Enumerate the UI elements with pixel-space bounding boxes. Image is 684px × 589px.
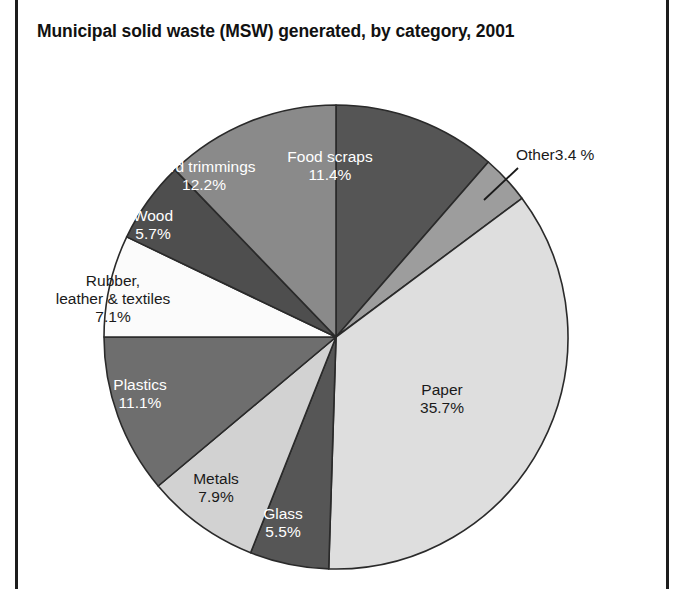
pie-chart: Food scraps11.4%Other3.4 %Paper35.7%Glas… — [0, 0, 684, 589]
pie-chart-svg — [0, 0, 684, 589]
slice-label-other: Other3.4 % — [516, 146, 594, 164]
figure-panel: Municipal solid waste (MSW) generated, b… — [0, 0, 684, 589]
slice-label-value-other: 3.4 % — [555, 146, 595, 163]
pie-slices-group — [104, 105, 568, 569]
slice-label-name-other: Other — [516, 146, 555, 163]
